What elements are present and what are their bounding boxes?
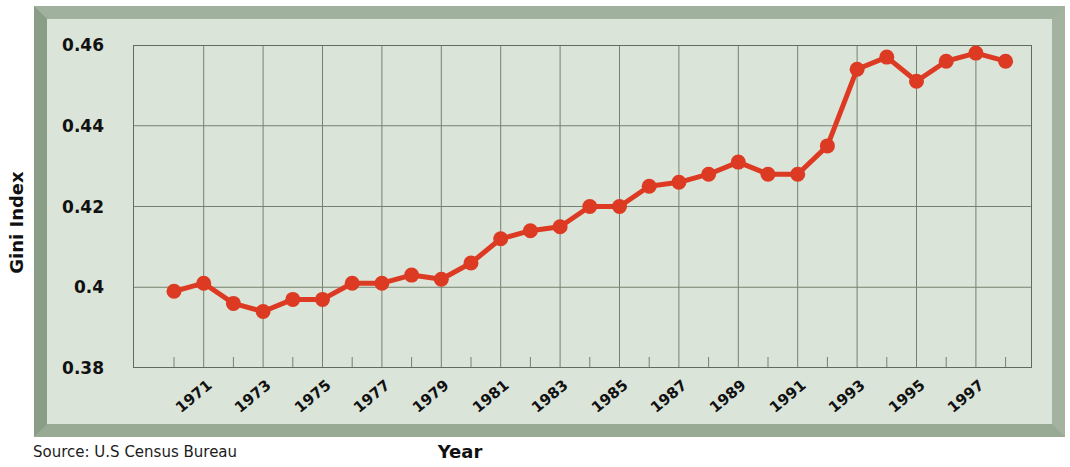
data-point-1981 xyxy=(493,231,508,246)
data-point-1971 xyxy=(196,276,211,291)
data-point-1985 xyxy=(612,199,627,214)
x-axis-title: Year xyxy=(400,441,520,462)
data-point-1995 xyxy=(909,74,924,89)
data-point-1980 xyxy=(464,256,479,271)
data-point-1972 xyxy=(226,296,241,311)
data-point-1993 xyxy=(850,62,865,77)
data-point-1978 xyxy=(404,268,419,283)
y-tick-label-0.44: 0.44 xyxy=(40,116,104,136)
data-point-1991 xyxy=(790,167,805,182)
data-point-1994 xyxy=(879,50,894,65)
y-axis-title: Gini Index xyxy=(6,155,27,291)
data-point-1976 xyxy=(345,276,360,291)
line-chart-svg xyxy=(133,45,1032,368)
data-point-1998 xyxy=(998,54,1013,69)
data-point-1983 xyxy=(553,219,568,234)
data-point-1979 xyxy=(434,272,449,287)
data-point-1992 xyxy=(820,138,835,153)
data-point-1982 xyxy=(523,223,538,238)
data-point-1989 xyxy=(731,155,746,170)
data-point-1973 xyxy=(256,304,271,319)
data-point-1990 xyxy=(761,167,776,182)
y-tick-label-0.46: 0.46 xyxy=(40,35,104,55)
y-tick-label-0.38: 0.38 xyxy=(40,358,104,378)
plot-area xyxy=(133,45,1032,368)
data-point-1986 xyxy=(642,179,657,194)
y-tick-label-0.4: 0.4 xyxy=(40,277,104,297)
data-point-1984 xyxy=(582,199,597,214)
source-note: Source: U.S Census Bureau xyxy=(33,443,237,461)
data-point-1974 xyxy=(285,292,300,307)
data-point-1997 xyxy=(968,46,983,61)
data-point-1977 xyxy=(374,276,389,291)
data-point-1975 xyxy=(315,292,330,307)
data-point-1988 xyxy=(701,167,716,182)
y-tick-label-0.42: 0.42 xyxy=(40,197,104,217)
data-point-1987 xyxy=(671,175,686,190)
data-point-1970 xyxy=(167,284,182,299)
data-point-1996 xyxy=(939,54,954,69)
gini-index-figure: Gini Index 0.460.440.420.40.38 197119731… xyxy=(0,0,1070,467)
